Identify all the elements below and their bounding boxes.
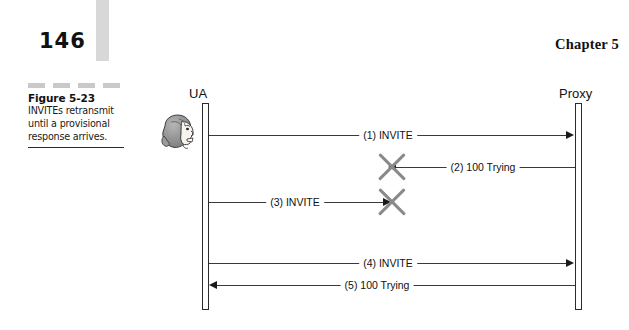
message-arrowhead-5 [209, 281, 217, 289]
sequence-diagram: UA Proxy (1) INVITE [0, 0, 629, 330]
message-label-4: (4) INVITE [359, 257, 417, 269]
actor-label-proxy: Proxy [559, 86, 592, 101]
actor-label-ua: UA [189, 86, 207, 101]
message-label-3: (3) INVITE [266, 196, 324, 208]
message-label-2: (2) 100 Trying [447, 161, 520, 173]
user-head-icon [157, 112, 199, 152]
lifeline-proxy [575, 103, 582, 310]
message-label-1: (1) INVITE [359, 129, 417, 141]
message-label-5: (5) 100 Trying [341, 279, 414, 291]
message-arrowhead-1 [566, 131, 574, 139]
message-loss-marker-2 [375, 150, 409, 184]
lifeline-ua [202, 103, 209, 310]
message-arrowhead-4 [566, 259, 574, 267]
message-loss-marker-3 [375, 185, 409, 219]
